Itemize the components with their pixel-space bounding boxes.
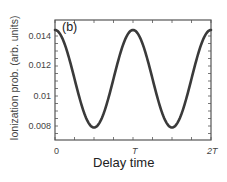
x-axis-label: Delay time	[93, 155, 154, 170]
y-tick-label: 0.014	[28, 31, 51, 41]
y-axis-label: Ionization prob. (arb. units)	[8, 8, 20, 148]
y-tick-label: 0.008	[28, 121, 51, 131]
axis-ticks	[55, 20, 211, 140]
x-tick-label: 0	[54, 146, 59, 156]
data-curve	[55, 30, 211, 128]
y-tick-label: 0.012	[28, 60, 51, 70]
panel-label: (b)	[62, 20, 77, 34]
x-tick-label: 2T	[207, 146, 218, 156]
plot-frame	[55, 20, 211, 140]
y-tick-label: 0.01	[33, 91, 51, 101]
